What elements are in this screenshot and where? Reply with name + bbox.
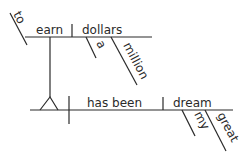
label-has-been: has been (87, 96, 142, 110)
sentence-diagram: to earn dollars a million has been dream… (0, 0, 248, 159)
a-slant-line (86, 37, 96, 58)
label-dream: dream (173, 96, 212, 110)
label-great: great (214, 110, 241, 145)
label-dollars: dollars (82, 23, 122, 37)
label-to: to (10, 9, 28, 26)
stilts-triangle (40, 97, 58, 110)
label-million: million (120, 40, 151, 82)
label-a: a (93, 38, 109, 51)
label-earn: earn (36, 23, 63, 37)
label-my: my (191, 109, 212, 132)
